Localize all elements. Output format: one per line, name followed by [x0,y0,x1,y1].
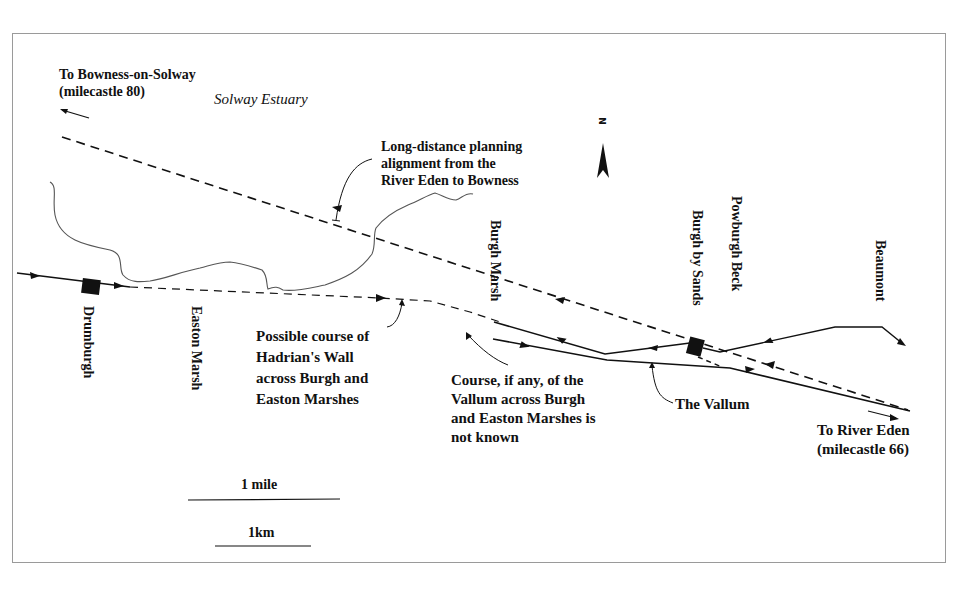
planning-label-line: Long-distance planning [381,138,522,155]
powburgh-beck-label: Powburgh Beck [728,196,744,291]
vallum-leader [652,366,673,403]
wall-label-line: Possible course of [256,326,369,347]
the-vallum-label: The Vallum [675,396,750,413]
eden-label-line: To River Eden [817,421,910,440]
drumburgh-label: Drumburgh [80,306,96,378]
eden-direction-arrow [868,411,899,421]
vallum-course-label: Course, if any, of the Vallum across Bur… [451,371,596,447]
burgh-marsh-line: Marsh [488,262,503,302]
planning-label-line: alignment from the [381,155,522,172]
wall-label-line: across Burgh and [256,368,369,389]
easton-marsh-line: Easton [189,306,204,347]
wall-label-line: Easton Marshes [256,389,369,410]
burgh-marsh-line: Burgh [488,220,503,258]
wall-burgh-line [494,322,705,357]
solway-estuary-label: Solway Estuary [214,91,308,108]
scale-mile-label: 1 mile [241,476,277,493]
vallum-course-line: not known [451,428,596,447]
easton-marsh-line: Marsh [189,351,204,391]
river-eden-label: To River Eden (milecastle 66) [817,421,910,459]
scale-km-label: 1km [248,524,274,541]
wall-beaumont-line [703,327,906,352]
scale-bar-mile [188,499,340,500]
vallum-course-line: Course, if any, of the [451,371,596,390]
wall-course-leader [387,303,402,327]
possible-wall-course-label: Possible course of Hadrian's Wall across… [256,326,369,410]
planning-alignment-label: Long-distance planning alignment from th… [381,138,522,189]
drumburgh-fort-icon [81,278,101,295]
planning-label-line: River Eden to Bowness [381,172,522,189]
coastline [50,182,473,291]
wall-label-line: Hadrian's Wall [256,347,369,368]
bowness-direction-arrow [60,109,89,118]
bowness-label-line: (milecastle 80) [59,83,196,100]
eden-label-line: (milecastle 66) [817,440,910,459]
burgh-marsh-label: Burgh Marsh [487,220,503,301]
burgh-by-sands-fort-icon [686,336,705,356]
beaumont-label: Beaumont [872,240,888,301]
possible-wall-course-line [130,287,500,322]
north-label: N [597,117,607,125]
bowness-label: To Bowness-on-Solway (milecastle 80) [59,66,196,100]
bowness-label-line: To Bowness-on-Solway [59,66,196,83]
vallum-course-line: Vallum across Burgh [451,390,596,409]
north-arrow-icon [597,143,609,178]
easton-marsh-label: Easton Marsh [188,306,204,390]
wall-west-line [17,272,130,295]
burgh-by-sands-label: Burgh by Sands [689,210,705,306]
vallum-course-leader [468,335,508,365]
planning-leader [336,159,372,220]
vallum-course-line: and Easton Marshes is [451,409,596,428]
